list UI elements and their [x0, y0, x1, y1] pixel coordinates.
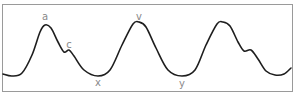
label-v-wave: v [136, 12, 142, 22]
label-c-wave: c [66, 40, 72, 50]
label-a-wave: a [42, 12, 48, 22]
label-y-descent: y [179, 79, 185, 89]
waveform-curve [3, 21, 291, 76]
label-x-descent: x [95, 78, 101, 88]
